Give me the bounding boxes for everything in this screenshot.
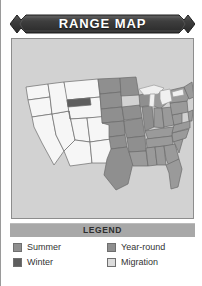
state-ok[interactable]	[109, 135, 127, 149]
legend-swatch-winter	[13, 258, 22, 267]
state-nd[interactable]	[98, 78, 121, 94]
legend-column-left: Summer Winter	[13, 240, 101, 270]
legend-column-right: Year-round Migration	[107, 240, 195, 270]
legend-item-year-round[interactable]: Year-round	[107, 240, 195, 255]
legend-label-summer: Summer	[27, 242, 61, 253]
state-ar[interactable]	[127, 136, 146, 152]
range-map-card: RANGE MAP	[0, 0, 202, 286]
legend-label-year-round: Year-round	[121, 242, 165, 253]
legend-header-label: LEGEND	[10, 224, 195, 237]
legend-swatch-summer	[13, 243, 22, 252]
legend-swatch-migration	[107, 258, 116, 267]
lake-michigan	[149, 94, 155, 107]
state-md-de-nj[interactable]	[188, 110, 193, 121]
legend-header-bar: LEGEND	[10, 223, 195, 237]
state-or[interactable]	[28, 97, 52, 117]
state-sd[interactable]	[100, 92, 122, 109]
state-mt[interactable]	[64, 79, 100, 100]
legend-item-summer[interactable]: Summer	[13, 240, 101, 255]
legend-body: Summer Winter Year-round Migration	[10, 240, 195, 272]
state-ne[interactable]	[101, 107, 124, 123]
legend-item-migration[interactable]: Migration	[107, 255, 195, 270]
legend-swatch-year-round	[107, 243, 116, 252]
us-range-map[interactable]	[12, 39, 193, 218]
legend-label-winter: Winter	[27, 257, 53, 268]
legend-item-winter[interactable]: Winter	[13, 255, 101, 270]
map-panel[interactable]	[11, 38, 194, 219]
page-title: RANGE MAP	[10, 13, 195, 35]
region-northern-rockies[interactable]	[67, 98, 91, 107]
title-banner: RANGE MAP	[10, 13, 195, 35]
state-mo[interactable]	[124, 118, 145, 138]
legend-label-migration: Migration	[121, 257, 158, 268]
state-mn[interactable]	[120, 77, 139, 96]
state-ia[interactable]	[122, 105, 142, 120]
